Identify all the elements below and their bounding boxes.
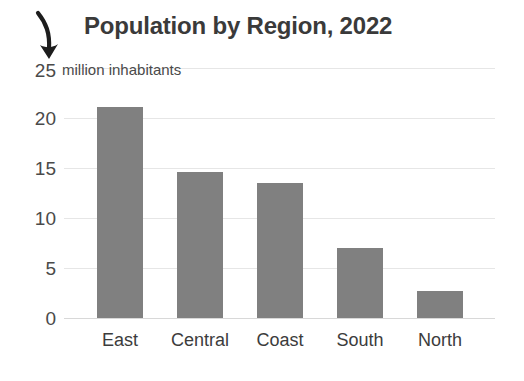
x-tick-label-central: Central [157,330,243,351]
y-axis-unit-label: million inhabitants [62,61,181,78]
x-tick-label-north: North [397,330,483,351]
bar-central [177,172,223,318]
y-tick-label-5: 5 [0,259,56,278]
bar-south [337,248,383,318]
bar-coast [257,183,303,318]
y-tick-label-25: 25 [0,61,56,80]
x-tick-label-south: South [317,330,403,351]
x-tick-label-coast: Coast [237,330,323,351]
x-tick-label-east: East [77,330,163,351]
bar-north [417,291,463,318]
bar-chart: 25 20 15 10 5 0 million inhabitants East… [0,0,524,381]
y-tick-label-15: 15 [0,159,56,178]
y-tick-label-20: 20 [0,109,56,128]
bars [0,0,524,381]
y-tick-label-0: 0 [0,309,56,328]
y-tick-label-10: 10 [0,209,56,228]
chart-title: Population by Region, 2022 [84,12,392,40]
curved-down-arrow-icon [26,9,74,63]
bar-east [97,107,143,318]
